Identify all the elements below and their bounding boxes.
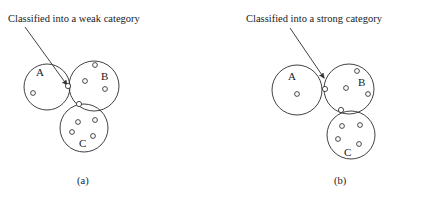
diagram-svg: Classified into a weak category A B C xyxy=(0,0,437,199)
cluster-label-c: C xyxy=(344,146,351,158)
data-point xyxy=(70,130,75,135)
panel-a-cluster-c[interactable]: C xyxy=(60,104,108,152)
data-point xyxy=(355,69,360,74)
cluster-label-a: A xyxy=(288,70,296,82)
data-point xyxy=(103,87,108,92)
cluster-circle-b[interactable] xyxy=(324,64,374,114)
panel-b: Classified into a strong category A B C xyxy=(246,13,383,187)
panel-a-cluster-a[interactable]: A xyxy=(24,64,70,110)
panel-caption-b: (b) xyxy=(334,175,347,187)
strong-boundary-point-bc xyxy=(338,107,343,112)
data-point xyxy=(91,134,96,139)
cluster-label-a: A xyxy=(36,66,44,78)
data-point xyxy=(336,137,341,142)
cluster-label-b: B xyxy=(358,76,365,88)
data-point xyxy=(31,91,36,96)
weak-boundary-point-ab xyxy=(65,83,70,88)
panel-b-cluster-a[interactable]: A xyxy=(272,65,322,115)
annotation-arrow-weak xyxy=(25,27,67,85)
annotation-label-strong: Classified into a strong category xyxy=(246,13,383,24)
panel-b-cluster-b[interactable]: B xyxy=(324,64,374,114)
weak-boundary-point-bc xyxy=(76,101,81,106)
data-point xyxy=(366,92,371,97)
cluster-circle-a[interactable] xyxy=(24,64,70,110)
data-point xyxy=(93,63,98,68)
cluster-label-c: C xyxy=(79,137,86,149)
data-point xyxy=(340,124,345,129)
data-point xyxy=(93,118,98,123)
data-point xyxy=(83,79,88,84)
data-point xyxy=(344,86,349,91)
cluster-label-b: B xyxy=(101,70,108,82)
strong-boundary-point-ab xyxy=(322,86,327,91)
panel-a: Classified into a weak category A B C xyxy=(8,13,141,187)
data-point xyxy=(358,123,363,128)
panel-caption-a: (a) xyxy=(77,175,89,187)
panel-b-cluster-c[interactable]: C xyxy=(327,111,375,159)
data-point xyxy=(76,120,81,125)
data-point xyxy=(295,92,300,97)
annotation-label-weak: Classified into a weak category xyxy=(8,13,141,24)
data-point xyxy=(357,142,362,147)
figure-canvas: Classified into a weak category A B C xyxy=(0,0,437,199)
cluster-circle-a[interactable] xyxy=(272,65,322,115)
